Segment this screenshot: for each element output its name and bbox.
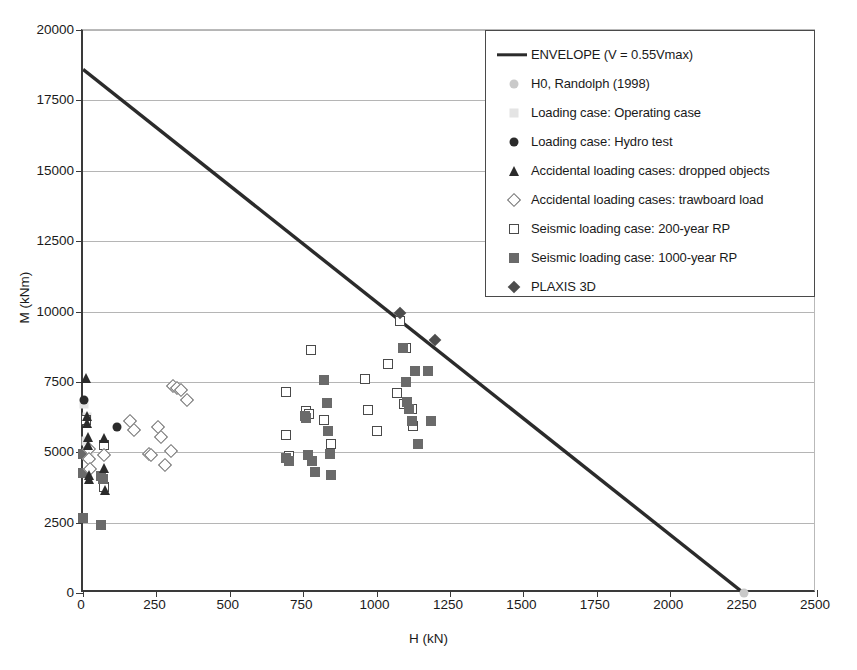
x-axis-tick-label: 1000 bbox=[360, 597, 390, 612]
y-axis-tick-label: 0 bbox=[66, 585, 74, 600]
y-axis-tick-label: 12500 bbox=[36, 233, 74, 248]
x-axis-tick bbox=[230, 590, 231, 597]
x-axis-tick bbox=[303, 590, 304, 597]
data-point-square-open bbox=[281, 430, 291, 440]
data-point-square-open bbox=[372, 426, 382, 436]
x-axis-tick bbox=[83, 590, 84, 597]
data-point-square-fill bbox=[404, 404, 414, 414]
legend-item-label: Loading case: Hydro test bbox=[531, 134, 672, 149]
data-point-square-fill bbox=[78, 513, 88, 523]
chart-legend: ENVELOPE (V = 0.55Vmax)H0, Randolph (199… bbox=[485, 30, 815, 297]
data-point-diamond-fill bbox=[429, 333, 442, 346]
data-point-square-open bbox=[383, 359, 393, 369]
legend-swatch bbox=[509, 253, 519, 263]
legend-item-label: ENVELOPE (V = 0.55Vmax) bbox=[531, 47, 693, 62]
legend-item[interactable]: Accidental loading cases: trawboard load bbox=[486, 185, 814, 214]
legend-item[interactable]: PLAXIS 3D bbox=[486, 272, 814, 301]
legend-item-label: Accidental loading cases: trawboard load bbox=[531, 192, 763, 207]
x-axis-tick bbox=[670, 590, 671, 597]
legend-item[interactable]: Accidental loading cases: dropped object… bbox=[486, 156, 814, 185]
legend-swatch bbox=[510, 137, 519, 146]
y-axis-tick bbox=[76, 171, 83, 172]
data-point-square-fill bbox=[310, 467, 320, 477]
legend-marker-diamond-open bbox=[497, 193, 531, 207]
data-point-square-fill bbox=[426, 416, 436, 426]
legend-swatch bbox=[509, 166, 519, 176]
data-point-square-fill bbox=[319, 375, 329, 385]
data-point-circle-dark bbox=[80, 396, 89, 405]
legend-item[interactable]: H0, Randolph (1998) bbox=[486, 69, 814, 98]
data-point-square-fill bbox=[96, 520, 106, 530]
data-point-square-open bbox=[360, 374, 370, 384]
legend-marker-square-light bbox=[497, 106, 531, 120]
x-axis-tick-label: 2000 bbox=[653, 597, 683, 612]
legend-marker-circle-light bbox=[497, 77, 531, 91]
y-axis-tick bbox=[76, 593, 83, 594]
x-axis-title: H (kN) bbox=[0, 631, 857, 646]
legend-marker-square-open bbox=[497, 222, 531, 236]
x-axis-tick-label: 500 bbox=[217, 597, 240, 612]
data-point-square-open bbox=[319, 415, 329, 425]
data-point-square-fill bbox=[325, 449, 335, 459]
x-axis-tick bbox=[817, 590, 818, 597]
data-point-circle-dark bbox=[112, 422, 121, 431]
gridline bbox=[83, 382, 814, 383]
data-point-square-fill bbox=[398, 343, 408, 353]
data-point-square-fill bbox=[284, 456, 294, 466]
data-point-square-open bbox=[392, 388, 402, 398]
x-axis-tick-labels: 02505007501000125015001750200022502500 bbox=[81, 597, 815, 617]
data-point-circle-light bbox=[739, 589, 748, 598]
data-point-triangle-dark bbox=[100, 485, 110, 495]
chart-figure: M (kNm) 02500500075001000012500150001750… bbox=[0, 0, 857, 670]
y-axis-tick-label: 17500 bbox=[36, 92, 74, 107]
y-axis-tick-label: 5000 bbox=[44, 444, 74, 459]
data-point-triangle-dark bbox=[84, 474, 94, 484]
legend-item-label: Accidental loading cases: dropped object… bbox=[531, 163, 770, 178]
x-axis-tick-label: 2250 bbox=[727, 597, 757, 612]
data-point-triangle-dark bbox=[99, 463, 109, 473]
legend-swatch bbox=[507, 192, 521, 206]
data-point-square-open bbox=[281, 387, 291, 397]
legend-item[interactable]: Loading case: Operating case bbox=[486, 98, 814, 127]
data-point-triangle-dark bbox=[99, 433, 109, 443]
y-axis-tick-label: 15000 bbox=[36, 162, 74, 177]
y-axis-tick bbox=[76, 30, 83, 31]
y-axis-tick-labels: 02500500075001000012500150001750020000 bbox=[0, 29, 74, 592]
legend-item[interactable]: Loading case: Hydro test bbox=[486, 127, 814, 156]
legend-marker-line bbox=[497, 48, 531, 62]
data-point-square-fill bbox=[407, 416, 417, 426]
data-point-square-open bbox=[363, 405, 373, 415]
x-axis-tick bbox=[156, 590, 157, 597]
legend-swatch bbox=[510, 79, 519, 88]
legend-swatch bbox=[509, 224, 519, 234]
legend-marker-diamond-fill bbox=[497, 280, 531, 294]
legend-swatch bbox=[508, 280, 521, 293]
data-point-triangle-dark bbox=[83, 440, 93, 450]
data-point-square-fill bbox=[401, 377, 411, 387]
legend-marker-square-fill bbox=[497, 251, 531, 265]
legend-marker-circle-dark bbox=[497, 135, 531, 149]
data-point-diamond-open bbox=[158, 458, 172, 472]
data-point-diamond-open bbox=[164, 444, 178, 458]
y-axis-tick bbox=[76, 312, 83, 313]
data-point-square-fill bbox=[301, 413, 311, 423]
legend-item-label: H0, Randolph (1998) bbox=[531, 76, 650, 91]
x-axis-tick-label: 1750 bbox=[580, 597, 610, 612]
data-point-square-fill bbox=[413, 439, 423, 449]
data-point-square-fill bbox=[323, 426, 333, 436]
legend-item[interactable]: ENVELOPE (V = 0.55Vmax) bbox=[486, 40, 814, 69]
data-point-triangle-dark bbox=[81, 373, 91, 383]
legend-item-label: PLAXIS 3D bbox=[531, 279, 596, 294]
gridline bbox=[83, 452, 814, 453]
legend-item[interactable]: Seismic loading case: 1000-year RP bbox=[486, 243, 814, 272]
x-axis-tick bbox=[597, 590, 598, 597]
x-axis-tick-label: 750 bbox=[290, 597, 313, 612]
y-axis-tick-label: 20000 bbox=[36, 22, 74, 37]
legend-marker-triangle-dark bbox=[497, 164, 531, 178]
legend-item-label: Seismic loading case: 1000-year RP bbox=[531, 250, 737, 265]
data-point-square-fill bbox=[322, 398, 332, 408]
x-axis-tick-label: 1250 bbox=[433, 597, 463, 612]
x-axis-tick-label: 250 bbox=[143, 597, 166, 612]
data-point-square-fill bbox=[98, 474, 108, 484]
legend-item[interactable]: Seismic loading case: 200-year RP bbox=[486, 214, 814, 243]
